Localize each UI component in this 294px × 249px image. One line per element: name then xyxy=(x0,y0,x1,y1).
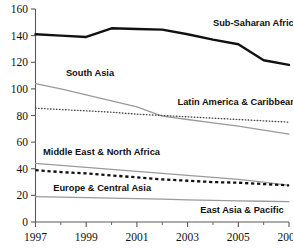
x-tick-label: 1997 xyxy=(24,231,47,243)
x-tick-label: 2003 xyxy=(176,231,199,243)
x-tick-label: 2007 xyxy=(278,231,294,243)
series-line-sub-saharan-africa xyxy=(36,28,290,65)
series-label-east-asia-pacific: East Asia & Pacific xyxy=(200,205,283,215)
series-label-sub-saharan-africa: Sub-Saharan Africa xyxy=(213,18,293,28)
y-tick-label: 140 xyxy=(11,30,29,42)
series-label-middle-east-north-africa: Middle East & North Africa xyxy=(43,147,161,157)
x-tick-label: 1999 xyxy=(75,231,98,243)
series-label-south-asia: South Asia xyxy=(66,68,115,78)
line-chart: 0204060801001201401601997199920012003200… xyxy=(0,0,293,249)
y-tick-label: 40 xyxy=(17,163,29,175)
y-tick-label: 60 xyxy=(17,136,29,148)
series-line-latin-america-caribbean xyxy=(36,108,290,122)
y-tick-label: 120 xyxy=(11,56,29,68)
y-tick-label: 160 xyxy=(11,3,29,15)
x-tick-label: 2005 xyxy=(227,231,250,243)
y-tick-label: 20 xyxy=(17,189,29,201)
series-line-south-asia xyxy=(36,84,290,135)
series-label-europe-central-asia: Europe & Central Asia xyxy=(53,183,152,193)
series-line-east-asia-pacific xyxy=(36,197,290,202)
y-tick-label: 0 xyxy=(22,216,28,228)
series-label-latin-america-caribbean: Latin America & Caribbean xyxy=(177,97,293,107)
x-tick-label: 2001 xyxy=(125,231,148,243)
chart-canvas: 0204060801001201401601997199920012003200… xyxy=(0,0,293,249)
y-tick-label: 80 xyxy=(17,110,29,122)
y-tick-label: 100 xyxy=(11,83,29,95)
